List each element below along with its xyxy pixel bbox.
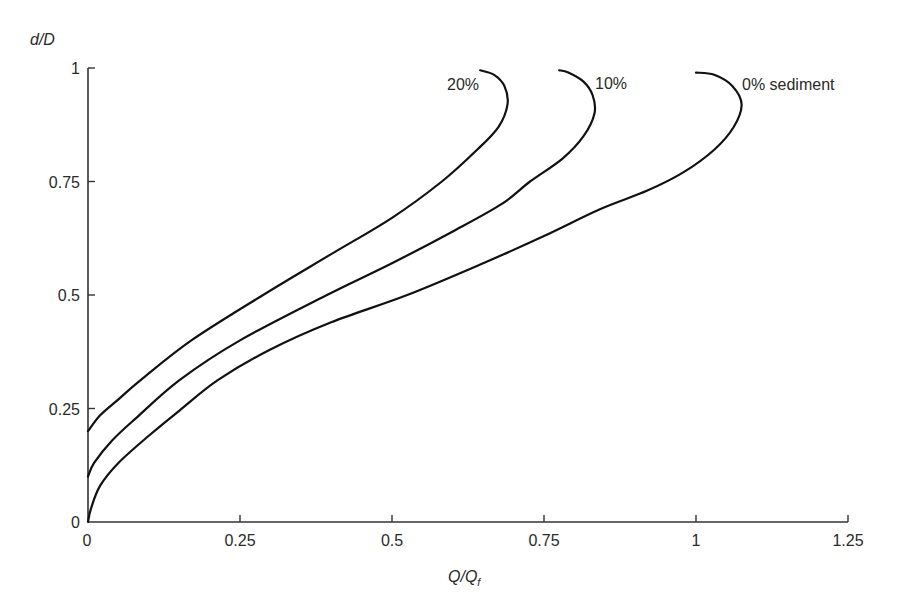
- y-tick-label: 0.25: [49, 401, 80, 418]
- curve-label-10-percent: 10%: [595, 75, 627, 92]
- y-tick-label: 0: [71, 514, 80, 531]
- x-tick-label: 0.75: [528, 532, 559, 549]
- curve-20: [88, 70, 508, 431]
- x-tick-label: 0.5: [381, 532, 403, 549]
- curve-10: [88, 70, 595, 476]
- curve-0-sediment: [88, 73, 742, 522]
- y-tick-label: 0.5: [58, 287, 80, 304]
- curve-label-0-percent-sediment: 0% sediment: [742, 76, 835, 93]
- x-axis-title-main: Q/Q: [448, 568, 477, 585]
- x-tick-label: 0: [83, 532, 92, 549]
- x-axis-title-subscript: f: [477, 576, 481, 588]
- x-tick-label: 1.25: [832, 532, 863, 549]
- x-axis-ticks: 00.250.50.7511.25: [83, 515, 864, 549]
- y-tick-label: 1: [71, 60, 80, 77]
- x-axis-title: Q/Qf: [448, 568, 481, 588]
- y-tick-label: 0.75: [49, 174, 80, 191]
- axes: [88, 68, 848, 522]
- chart-canvas: 00.250.50.751 00.250.50.7511.25 d/D Q/Qf…: [0, 0, 902, 612]
- x-tick-label: 0.25: [224, 532, 255, 549]
- x-tick-label: 1: [692, 532, 701, 549]
- y-axis-title: d/D: [30, 31, 55, 48]
- data-curves: [88, 70, 742, 522]
- curve-label-20-percent: 20%: [447, 76, 479, 93]
